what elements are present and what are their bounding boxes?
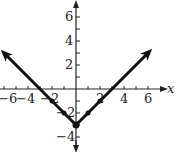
function-graph: −6 −4 −2 2 4 6 x 6 4 2 −2 −4 xyxy=(0,0,178,152)
point xyxy=(62,111,67,116)
y-tick-label: 2 xyxy=(65,57,73,72)
point xyxy=(98,99,103,104)
vertex-point xyxy=(73,122,80,129)
y-tick-label: 4 xyxy=(65,33,73,48)
y-tick-label: 6 xyxy=(65,9,73,24)
x-tick-label: 6 xyxy=(144,91,152,106)
point xyxy=(50,99,55,104)
x-tick-label: −6 xyxy=(0,91,17,106)
point xyxy=(86,111,91,116)
x-axis-label: x xyxy=(167,81,175,96)
x-tick-label: −4 xyxy=(16,91,35,106)
y-tick-label: −4 xyxy=(56,129,75,144)
x-tick-label: 4 xyxy=(120,91,128,106)
